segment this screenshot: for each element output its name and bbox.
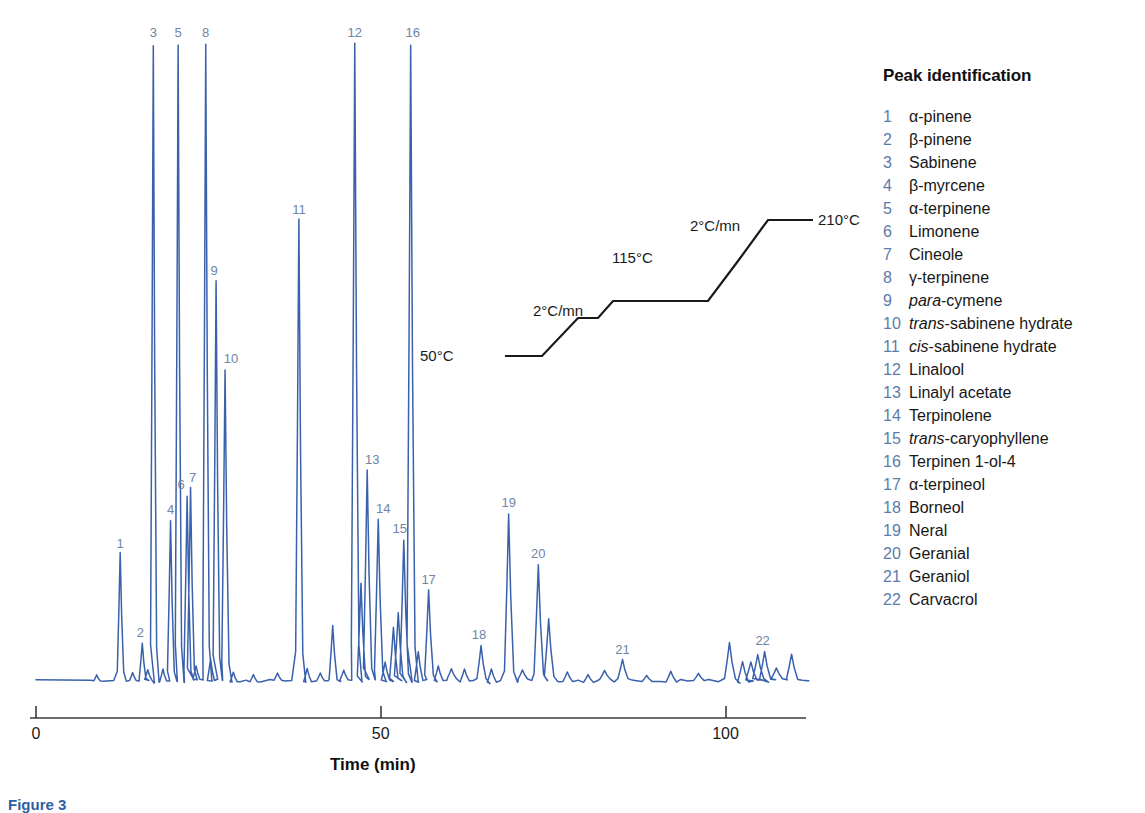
peak-label-2: 2: [137, 626, 144, 639]
peak-label-10: 10: [224, 352, 238, 365]
legend-item-name: γ-terpinene: [909, 269, 989, 287]
legend-item-15: 15trans-caryophyllene: [883, 430, 1138, 450]
legend-item-name: trans-sabinene hydrate: [909, 315, 1073, 333]
peak-label-4: 4: [167, 503, 174, 516]
legend-item-17: 17α-terpineol: [883, 476, 1138, 496]
legend-item-number: 21: [883, 568, 909, 586]
legend-item-name: Cineole: [909, 246, 963, 264]
legend-item-21: 21Geraniol: [883, 568, 1138, 588]
legend-item-number: 20: [883, 545, 909, 563]
peak-label-8: 8: [202, 26, 209, 39]
legend-item-number: 9: [883, 292, 909, 310]
peak-label-12: 12: [348, 26, 362, 39]
legend-item-name: trans-caryophyllene: [909, 430, 1049, 448]
legend-item-name: Geraniol: [909, 568, 969, 586]
legend-item-name-rest: -sabinene hydrate: [929, 338, 1057, 355]
peak-label-17: 17: [421, 573, 435, 586]
legend-item-number: 19: [883, 522, 909, 540]
x-axis-title: Time (min): [330, 755, 416, 775]
legend-item-name: Terpinolene: [909, 407, 992, 425]
legend-item-number: 1: [883, 108, 909, 126]
temp-ramp1-label: 2°C/mn: [533, 303, 583, 318]
legend-title: Peak identification: [883, 66, 1138, 86]
legend-item-number: 2: [883, 131, 909, 149]
legend-item-6: 6Limonene: [883, 223, 1138, 243]
temperature-program-line: [505, 220, 813, 356]
legend-item-number: 16: [883, 453, 909, 471]
legend-item-number: 22: [883, 591, 909, 609]
temp-end-label: 210°C: [818, 212, 860, 227]
peak-label-5: 5: [175, 26, 182, 39]
legend-item-name: Borneol: [909, 499, 964, 517]
legend-item-5: 5α-terpinene: [883, 200, 1138, 220]
peak-label-19: 19: [501, 496, 515, 509]
legend-item-number: 5: [883, 200, 909, 218]
legend-item-name: Sabinene: [909, 154, 977, 172]
legend-item-14: 14Terpinolene: [883, 407, 1138, 427]
peak-identification-legend: Peak identification 1α-pinene2β-pinene3S…: [883, 66, 1138, 614]
peak-label-9: 9: [210, 264, 217, 277]
legend-item-number: 7: [883, 246, 909, 264]
legend-item-italic-prefix: trans: [909, 315, 945, 332]
legend-item-name: Linalool: [909, 361, 964, 379]
legend-item-name: α-pinene: [909, 108, 972, 126]
legend-item-name: Geranial: [909, 545, 969, 563]
legend-list: 1α-pinene2β-pinene3Sabinene4β-myrcene5α-…: [883, 108, 1138, 611]
legend-item-italic-prefix: cis: [909, 338, 929, 355]
legend-item-19: 19Neral: [883, 522, 1138, 542]
legend-item-name: para-cymene: [909, 292, 1002, 310]
legend-item-2: 2β-pinene: [883, 131, 1138, 151]
legend-item-name-rest: -sabinene hydrate: [945, 315, 1073, 332]
legend-item-16: 16Terpinen 1-ol-4: [883, 453, 1138, 473]
legend-item-20: 20Geranial: [883, 545, 1138, 565]
legend-item-number: 8: [883, 269, 909, 287]
peak-label-21: 21: [615, 643, 629, 656]
peak-label-3: 3: [150, 26, 157, 39]
peak-label-15: 15: [393, 522, 407, 535]
x-axis-tick-label-0: 0: [31, 726, 40, 742]
legend-item-12: 12Linalool: [883, 361, 1138, 381]
legend-item-4: 4β-myrcene: [883, 177, 1138, 197]
legend-item-name: β-myrcene: [909, 177, 985, 195]
peak-label-7: 7: [189, 471, 196, 484]
temp-start-label: 50°C: [420, 348, 454, 363]
figure-caption: Figure 3: [8, 796, 66, 813]
legend-item-1: 1α-pinene: [883, 108, 1138, 128]
legend-item-name: α-terpinene: [909, 200, 990, 218]
legend-item-number: 14: [883, 407, 909, 425]
figure-root: 12345678910111213141516171819202122 0501…: [0, 0, 1145, 813]
legend-item-name: Carvacrol: [909, 591, 977, 609]
x-axis-tick-label-50: 50: [372, 726, 390, 742]
peak-label-11: 11: [292, 203, 306, 216]
legend-item-name: Limonene: [909, 223, 979, 241]
legend-item-number: 12: [883, 361, 909, 379]
legend-item-name: Neral: [909, 522, 947, 540]
x-axis-tick-label-100: 100: [712, 726, 739, 742]
legend-item-name: Linalyl acetate: [909, 384, 1011, 402]
legend-item-number: 4: [883, 177, 909, 195]
peak-label-14: 14: [376, 502, 390, 515]
legend-item-7: 7Cineole: [883, 246, 1138, 266]
temperature-program-inset: 50°C 2°C/mn 115°C 2°C/mn 210°C: [420, 158, 850, 393]
legend-item-number: 3: [883, 154, 909, 172]
peak-label-13: 13: [365, 453, 379, 466]
legend-item-11: 11cis-sabinene hydrate: [883, 338, 1138, 358]
legend-item-italic-prefix: trans: [909, 430, 945, 447]
legend-item-number: 17: [883, 476, 909, 494]
legend-item-name: α-terpineol: [909, 476, 985, 494]
peak-label-6: 6: [177, 478, 184, 491]
legend-item-number: 11: [883, 338, 909, 356]
legend-item-number: 18: [883, 499, 909, 517]
legend-item-name-rest: -cymene: [941, 292, 1002, 309]
legend-item-italic-prefix: para: [909, 292, 941, 309]
peak-label-22: 22: [755, 634, 769, 647]
temp-ramp2-label: 2°C/mn: [690, 218, 740, 233]
legend-item-22: 22Carvacrol: [883, 591, 1138, 611]
peak-label-16: 16: [405, 26, 419, 39]
legend-item-name: β-pinene: [909, 131, 972, 149]
legend-item-9: 9para-cymene: [883, 292, 1138, 312]
legend-item-name: Terpinen 1-ol-4: [909, 453, 1016, 471]
legend-item-13: 13Linalyl acetate: [883, 384, 1138, 404]
legend-item-18: 18Borneol: [883, 499, 1138, 519]
x-axis-ticks: [36, 706, 726, 718]
